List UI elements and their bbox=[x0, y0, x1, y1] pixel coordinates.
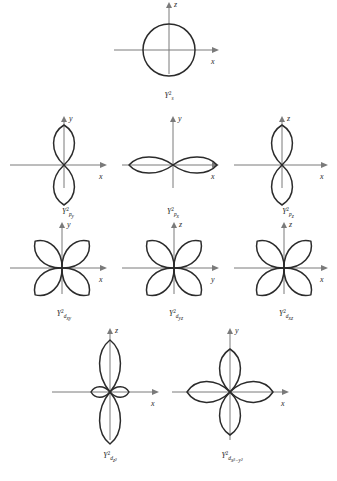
horizontal-axis-arrow bbox=[212, 47, 219, 53]
orbital-panel-d_yz: yzY2dyz bbox=[118, 224, 228, 324]
orbital-caption-p_x: Y2px bbox=[118, 208, 228, 216]
axis-label-horizontal: x bbox=[319, 172, 324, 181]
axis-label-vertical: z bbox=[288, 220, 293, 229]
horizontal-axis-arrow bbox=[321, 265, 328, 271]
axis-label-vertical: y bbox=[234, 326, 239, 335]
axis-label-horizontal: y bbox=[210, 275, 215, 284]
horizontal-axis-arrow bbox=[100, 162, 107, 168]
horizontal-axis-arrow bbox=[100, 265, 107, 271]
vertical-axis-arrow bbox=[281, 222, 287, 228]
orbital-panel-p_z: xzY2pz bbox=[230, 118, 337, 218]
axis-label-vertical: z bbox=[286, 114, 291, 123]
axis-label-horizontal: x bbox=[210, 57, 215, 66]
orbital-caption-d_yz: Y2dyz bbox=[121, 310, 231, 318]
axis-label-horizontal: x bbox=[210, 172, 215, 181]
axis-label-vertical: z bbox=[178, 220, 183, 229]
vertical-axis-arrow bbox=[227, 328, 233, 334]
orbital-caption-p_z: Y2pz bbox=[235, 208, 337, 216]
orbital-caption-d_x2y2: Y2dx²−y² bbox=[167, 452, 297, 460]
vertical-axis-arrow bbox=[107, 328, 113, 334]
orbital-figure-plate: xzY2sxyY2pyxyY2pxxzY2pzxyY2dxyyzY2dyzxzY… bbox=[0, 0, 337, 481]
horizontal-axis-arrow bbox=[321, 162, 328, 168]
orbital-panel-p_y: xyY2py bbox=[6, 118, 116, 218]
vertical-axis-arrow bbox=[59, 222, 65, 228]
orbital-panel-d_xz: xzY2dxz bbox=[230, 224, 337, 324]
horizontal-axis-arrow bbox=[152, 389, 159, 395]
orbital-panel-d_z2: xzY2dz² bbox=[48, 330, 168, 470]
orbital-caption-d_z2: Y2dz² bbox=[50, 452, 170, 460]
orbital-caption-d_xz: Y2dxz bbox=[233, 310, 337, 318]
vertical-axis-arrow bbox=[171, 222, 177, 228]
axis-label-horizontal: x bbox=[280, 399, 285, 408]
horizontal-axis-arrow bbox=[282, 389, 289, 395]
axis-label-vertical: y bbox=[68, 114, 73, 123]
orbital-caption-p_y: Y2py bbox=[13, 208, 123, 216]
orbital-panel-d_xy: xyY2dxy bbox=[6, 224, 116, 324]
axis-label-horizontal: x bbox=[98, 275, 103, 284]
axis-label-horizontal: x bbox=[319, 275, 324, 284]
vertical-axis-arrow bbox=[61, 116, 67, 122]
orbital-panel-d_x2y2: xyY2dx²−y² bbox=[168, 330, 298, 470]
axis-label-vertical: y bbox=[66, 220, 71, 229]
axis-label-horizontal: x bbox=[150, 399, 155, 408]
orbital-panel-s: xzY2s bbox=[110, 4, 228, 104]
axis-label-vertical: y bbox=[177, 114, 182, 123]
orbital-caption-d_xy: Y2dxy bbox=[9, 310, 119, 318]
vertical-axis-arrow bbox=[279, 116, 285, 122]
orbital-caption-s: Y2s bbox=[110, 92, 228, 100]
axis-label-vertical: z bbox=[114, 326, 119, 335]
orbital-panel-p_x: xyY2px bbox=[118, 118, 228, 218]
axis-label-vertical: z bbox=[173, 0, 178, 9]
vertical-axis-arrow bbox=[170, 116, 176, 122]
horizontal-axis-arrow bbox=[212, 265, 219, 271]
axis-label-horizontal: x bbox=[98, 172, 103, 181]
vertical-axis-arrow bbox=[166, 2, 172, 8]
